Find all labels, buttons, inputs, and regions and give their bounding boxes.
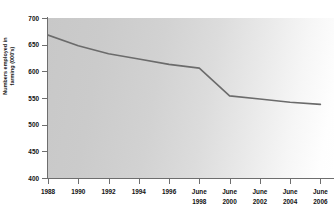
- x-tick-mark: [109, 179, 110, 184]
- y-tick-label: 550: [9, 95, 39, 102]
- x-tick-label-line1: June: [192, 188, 207, 195]
- y-tick-mark: [42, 151, 47, 152]
- y-tick-mark: [42, 178, 47, 179]
- x-tick-mark: [260, 179, 261, 184]
- x-tick-mark: [48, 179, 49, 184]
- y-tick-label: 650: [9, 41, 39, 48]
- y-tick-mark: [42, 18, 47, 19]
- y-tick-label: 700: [9, 15, 39, 22]
- y-axis-title: Numbers employed in farming (000's): [2, 6, 22, 126]
- line-chart-figure: Numbers employed in farming (000's) 7006…: [0, 0, 336, 216]
- x-tick-label-line1: June: [222, 188, 237, 195]
- x-tick-label-line1: 1990: [71, 188, 85, 195]
- y-tick-label: 450: [9, 148, 39, 155]
- x-tick-mark: [230, 179, 231, 184]
- y-tick-label: 400: [9, 175, 39, 182]
- x-tick-label-line1: 1996: [162, 188, 176, 195]
- x-tick-mark: [320, 179, 321, 184]
- y-tick-mark: [42, 125, 47, 126]
- x-tick-mark: [78, 179, 79, 184]
- x-tick-label-line1: June: [313, 188, 328, 195]
- y-tick-label: 600: [9, 68, 39, 75]
- y-tick-mark: [42, 45, 47, 46]
- x-tick-label-line1: June: [283, 188, 298, 195]
- x-tick-label-line2: 2006: [298, 197, 336, 207]
- plot-area: [48, 18, 334, 178]
- y-tick-mark: [42, 71, 47, 72]
- x-tick-mark: [290, 179, 291, 184]
- x-tick-label: June2006: [298, 187, 336, 206]
- y-tick-label: 500: [9, 121, 39, 128]
- y-tick-mark: [42, 98, 47, 99]
- x-tick-mark: [199, 179, 200, 184]
- x-tick-label-line1: June: [252, 188, 267, 195]
- x-tick-label-line1: 1994: [132, 188, 146, 195]
- x-tick-mark: [169, 179, 170, 184]
- x-tick-label-line1: 1988: [41, 188, 55, 195]
- series-line-farming: [48, 35, 320, 104]
- x-tick-label-line1: 1992: [101, 188, 115, 195]
- y-axis-line: [47, 17, 48, 179]
- plot-series-svg: [48, 18, 334, 178]
- x-tick-mark: [139, 179, 140, 184]
